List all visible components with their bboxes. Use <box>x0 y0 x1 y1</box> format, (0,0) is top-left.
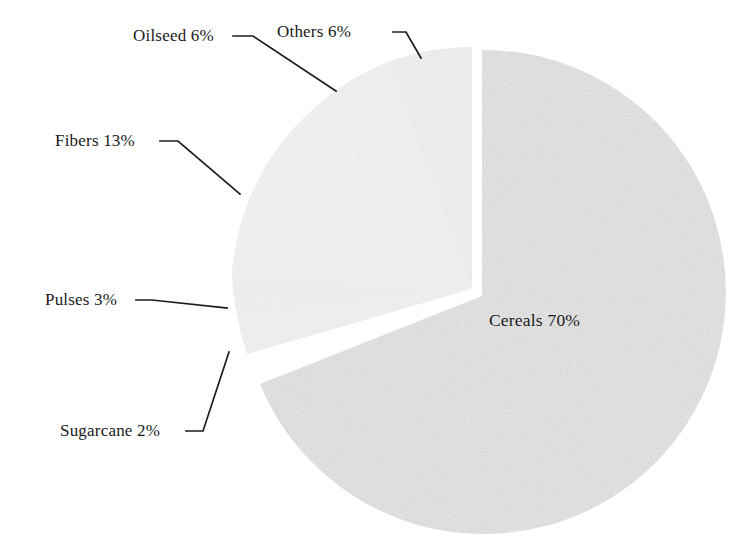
pie-label-sugarcane: Sugarcane 2% <box>60 422 160 439</box>
pie-label-others: Others 6% <box>277 23 351 40</box>
pie-label-fibers: Fibers 13% <box>55 132 135 149</box>
pie-chart-canvas <box>0 0 754 557</box>
pie-label-pulses: Pulses 3% <box>45 291 117 308</box>
leader-line-oilseed <box>233 36 336 91</box>
pie-chart-figure: Oilseed 6% Others 6% Fibers 13% Pulses 3… <box>0 0 754 557</box>
pie-label-oilseed: Oilseed 6% <box>133 27 214 44</box>
leader-line-pulses <box>136 300 227 308</box>
leader-line-sugarcane <box>186 352 229 431</box>
minor-slices-group <box>232 47 472 354</box>
pie-label-cereals: Cereals 70% <box>489 312 580 330</box>
leader-line-fibers <box>160 141 240 194</box>
